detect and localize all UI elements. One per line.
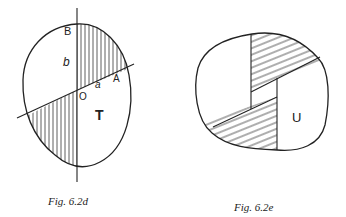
figure-canvas: B b A a O T Fig. 6.2d U Fig. 6.2e	[0, 0, 346, 217]
caption-fig-6-2e: Fig. 6.2e	[233, 201, 274, 213]
label-A: A	[113, 73, 120, 84]
caption-fig-6-2d: Fig. 6.2d	[47, 195, 89, 207]
hatched-region-upper	[77, 0, 140, 90]
figure-6-2d: B b A a O T Fig. 6.2d	[0, 0, 140, 217]
figure-6-2e: U Fig. 6.2e	[180, 0, 340, 217]
hatched-region-lower	[180, 97, 277, 217]
label-T: T	[95, 107, 104, 123]
label-U: U	[292, 110, 301, 125]
label-alpha: a	[95, 79, 101, 90]
label-B: B	[64, 25, 71, 37]
label-b: b	[63, 55, 70, 69]
label-O: O	[79, 91, 87, 102]
